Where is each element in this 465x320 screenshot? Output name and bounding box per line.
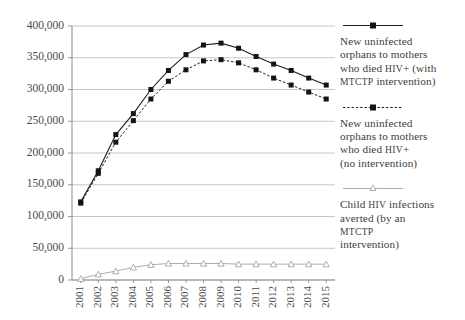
legend-text-frag: infections — [386, 198, 434, 210]
series-line-0 — [81, 43, 326, 202]
y-axis-tick-label: 350,000 — [27, 50, 65, 63]
data-point-marker — [148, 87, 153, 92]
x-axis-tick-label: 2003 — [108, 286, 120, 309]
data-point-marker — [131, 118, 136, 123]
y-axis-tick-label: 400,000 — [27, 19, 65, 32]
x-axis-tick-label: 2009 — [214, 286, 226, 309]
data-point-marker — [236, 46, 241, 51]
data-point-marker — [289, 83, 294, 88]
legend-swatch-dashed-square — [342, 102, 404, 113]
x-axis-tick-label: 2015 — [319, 286, 331, 309]
series-line-1 — [81, 60, 326, 204]
x-axis-tick-label: 2013 — [284, 286, 296, 309]
legend-label-line-4: MTCTP intervention) — [340, 75, 462, 88]
x-axis-tick-label: 2014 — [301, 286, 313, 309]
y-axis-tick-label: 200,000 — [27, 146, 65, 159]
legend-swatch-light-triangle — [342, 183, 404, 194]
y-axis-tick-label: 300,000 — [27, 82, 65, 95]
data-point-marker — [131, 111, 136, 116]
x-axis-tick-label: 2006 — [161, 286, 173, 309]
data-point-marker — [78, 201, 83, 206]
x-axis-tick-label: 2002 — [91, 286, 103, 308]
data-point-marker — [201, 43, 206, 48]
data-point-marker — [324, 97, 329, 102]
legend-label-line-4: intervention) — [340, 238, 462, 251]
data-point-marker — [219, 57, 224, 62]
y-axis-tick-label: 50,000 — [32, 241, 64, 254]
legend-text-abbr: HIV — [385, 144, 403, 155]
data-point-marker — [254, 54, 259, 59]
y-axis-tick-label: 0 — [58, 273, 64, 285]
legend-label-line-2: orphans to mothers — [340, 130, 462, 143]
data-point-marker — [324, 83, 329, 88]
legend-entry-with-intervention: New uninfected orphans to mothers who di… — [340, 20, 462, 89]
chart-container: 050,000100,000150,000200,000250,000300,0… — [0, 0, 465, 320]
chart-legend: New uninfected orphans to mothers who di… — [340, 20, 462, 265]
legend-label-line-4: (no intervention) — [340, 157, 462, 170]
y-axis-tick-labels: 050,000100,000150,000200,000250,000300,0… — [27, 19, 65, 285]
data-point-marker — [183, 67, 188, 72]
legend-text-frag: Child — [340, 198, 368, 210]
legend-entry-no-intervention: New uninfected orphans to mothers who di… — [340, 102, 462, 171]
data-point-marker — [306, 90, 311, 95]
legend-label-line-3: MTCTP — [340, 225, 462, 238]
legend-text-frag: who died — [340, 143, 385, 155]
legend-label-line-2: orphans to mothers — [340, 48, 462, 61]
data-point-marker — [166, 79, 171, 84]
y-axis-tick-label: 150,000 — [27, 177, 65, 190]
legend-label-line-3: who died HIV+ (with — [340, 62, 462, 75]
data-point-marker — [113, 132, 118, 137]
x-axis-tick-labels: 2001200220032004200520062007200820092010… — [73, 286, 330, 309]
legend-label-line-1: Child HIV infections — [340, 198, 462, 211]
legend-label-line-1: New uninfected — [340, 117, 462, 130]
legend-text-frag: + (with — [403, 62, 436, 74]
x-axis-tick-label: 2012 — [266, 286, 278, 308]
data-point-marker — [271, 76, 276, 81]
data-point-marker — [148, 97, 153, 102]
data-point-marker — [96, 171, 101, 176]
legend-swatch-solid-square — [342, 20, 404, 31]
legend-text-abbr: HIV — [385, 63, 403, 74]
y-axis-tick-label: 100,000 — [27, 209, 65, 222]
y-axis-tick-label: 250,000 — [27, 114, 65, 127]
legend-text-abbr: HIV — [368, 199, 386, 210]
data-point-marker — [219, 41, 224, 46]
legend-text-abbr: MTCTP — [340, 76, 374, 87]
data-point-marker — [289, 68, 294, 73]
data-series-group — [78, 41, 330, 282]
data-point-marker — [183, 52, 188, 57]
x-axis-tick-label: 2005 — [143, 286, 155, 309]
x-axis-tick-label: 2010 — [231, 286, 243, 309]
data-point-marker — [113, 140, 118, 145]
x-axis-tick-label: 2008 — [196, 286, 208, 309]
x-axis-tick-label: 2011 — [249, 286, 261, 308]
legend-label-line-1: New uninfected — [340, 35, 462, 48]
grid-lines — [72, 26, 335, 280]
x-axis-tick-label: 2004 — [126, 286, 138, 309]
data-point-marker — [306, 76, 311, 81]
data-point-marker — [254, 67, 259, 72]
legend-text-frag: intervention) — [374, 75, 436, 87]
legend-label-line-3: who died HIV+ — [340, 143, 462, 156]
x-axis-tick-label: 2001 — [73, 286, 85, 308]
data-point-marker — [236, 60, 241, 65]
legend-entry-infections-averted: Child HIV infections averted (by an MTCT… — [340, 183, 462, 252]
data-point-marker — [271, 62, 276, 67]
x-axis-tick-label: 2007 — [178, 286, 190, 309]
legend-label-line-2: averted (by an — [340, 212, 462, 225]
legend-text-frag: + — [403, 143, 409, 155]
data-point-marker — [201, 58, 206, 63]
axis-lines — [68, 26, 335, 283]
legend-text-frag: who died — [340, 62, 385, 74]
data-point-marker — [166, 68, 171, 73]
